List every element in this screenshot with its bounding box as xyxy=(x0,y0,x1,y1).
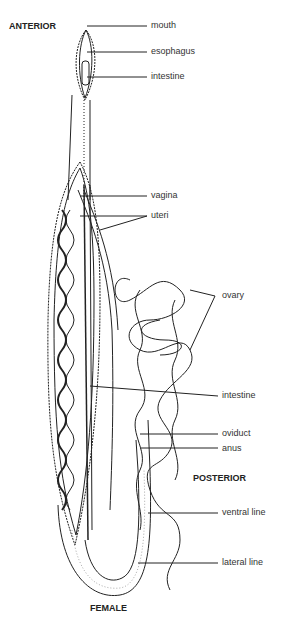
label-oviduct: oviduct xyxy=(222,428,251,438)
label-ventral-line: ventral line xyxy=(222,507,266,517)
label-uteri: uteri xyxy=(151,210,169,220)
nematode-female-anatomy-drawing xyxy=(0,0,284,623)
anterior-heading: ANTERIOR xyxy=(9,21,56,31)
label-ovary: ovary xyxy=(222,290,244,300)
label-vagina: vagina xyxy=(151,190,178,200)
label-lateral-line: lateral line xyxy=(222,557,263,567)
female-heading: FEMALE xyxy=(90,603,127,613)
label-mouth: mouth xyxy=(151,20,176,30)
label-anus: anus xyxy=(222,443,242,453)
posterior-heading: POSTERIOR xyxy=(193,473,246,483)
label-intestine-anterior: intestine xyxy=(151,71,185,81)
label-esophagus: esophagus xyxy=(151,46,195,56)
label-intestine-mid: intestine xyxy=(222,390,256,400)
uterus-coils xyxy=(58,210,66,510)
